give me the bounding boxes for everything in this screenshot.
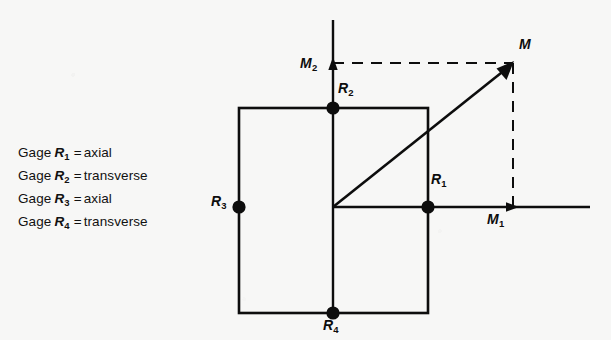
label-r2-subscript: 2 — [348, 87, 353, 98]
gage-dot-r1 — [421, 200, 434, 213]
legend-prefix: Gage — [18, 168, 51, 183]
label-r3-subscript: 3 — [221, 200, 226, 211]
label-r4-subscript: 4 — [333, 324, 338, 335]
legend-value: axial — [84, 191, 112, 206]
label-m-vector: M — [519, 36, 531, 52]
legend-item-r4: GageR4=transverse — [18, 211, 218, 234]
legend-equals: = — [72, 214, 84, 229]
label-gage-r2: R2 — [338, 80, 354, 96]
legend-equals: = — [72, 191, 84, 206]
legend-value: axial — [84, 145, 112, 160]
legend-prefix: Gage — [18, 145, 51, 160]
label-m2-subscript: 2 — [312, 62, 317, 73]
gage-dot-r3 — [232, 200, 245, 213]
legend-equals: = — [72, 168, 84, 183]
gage-legend: GageR1=axial GageR2=transverse GageR3=ax… — [18, 142, 218, 234]
label-gage-r4: R4 — [323, 317, 339, 333]
legend-prefix: Gage — [18, 214, 51, 229]
moment-vector-line — [333, 69, 506, 207]
gage-dot-r2 — [326, 101, 339, 114]
legend-symbol: R1 — [51, 145, 71, 160]
label-m2-axis: M2 — [300, 55, 317, 71]
legend-subscript: 1 — [64, 151, 71, 162]
label-r1-subscript: 1 — [441, 178, 446, 189]
legend-equals: = — [72, 145, 84, 160]
legend-item-r1: GageR1=axial — [18, 142, 218, 165]
label-gage-r1: R1 — [431, 171, 447, 187]
label-gage-r3: R3 — [211, 193, 227, 209]
legend-subscript: 3 — [64, 197, 71, 208]
legend-subscript: 4 — [64, 220, 71, 231]
legend-value: transverse — [84, 214, 148, 229]
label-m1-subscript: 1 — [499, 218, 504, 229]
legend-symbol: R2 — [51, 168, 71, 183]
legend-value: transverse — [84, 168, 148, 183]
label-m1-axis: M1 — [487, 211, 504, 227]
legend-symbol: R4 — [51, 214, 71, 229]
legend-prefix: Gage — [18, 191, 51, 206]
legend-item-r2: GageR2=transverse — [18, 165, 218, 188]
legend-subscript: 2 — [64, 174, 71, 185]
legend-item-r3: GageR3=axial — [18, 188, 218, 211]
legend-symbol: R3 — [51, 191, 71, 206]
